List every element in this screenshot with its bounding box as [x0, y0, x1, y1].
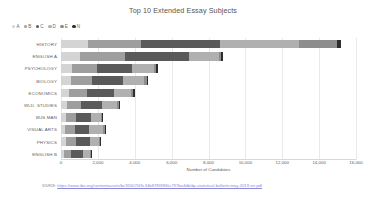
bar-segment-n[interactable]	[221, 52, 223, 61]
bar-segment-n[interactable]	[119, 101, 120, 110]
x-tick-label: 8,000	[203, 160, 214, 165]
legend-item-d[interactable]: D	[48, 24, 56, 29]
bar-segment-b[interactable]	[71, 76, 92, 85]
bar-segment-d[interactable]	[89, 125, 103, 134]
bar-segment-n[interactable]	[105, 125, 106, 134]
bar-segment-d[interactable]	[123, 76, 144, 85]
bar-segment-a[interactable]	[61, 40, 88, 49]
chart-title: Top 10 Extended Essay Subjects	[0, 6, 366, 15]
source-word: source:	[42, 183, 56, 188]
source-url[interactable]: https://www.ibo.org/contentassets/bc9200…	[57, 183, 262, 188]
bar-row[interactable]	[61, 76, 148, 85]
legend-label-n: N	[77, 24, 80, 29]
bar-segment-c[interactable]	[81, 101, 102, 110]
bar-row[interactable]	[61, 150, 92, 159]
bar-segment-b[interactable]	[69, 89, 87, 98]
legend-item-e[interactable]: E	[60, 24, 67, 29]
bar-segment-n[interactable]	[100, 137, 101, 146]
y-axis-label-english-b: ENGLISH B	[32, 152, 57, 157]
bar-segment-n[interactable]	[91, 150, 92, 159]
bar-segment-d[interactable]	[114, 89, 132, 98]
legend-label-e: E	[65, 24, 68, 29]
bar-segment-b[interactable]	[72, 64, 97, 73]
legend-swatch-n	[72, 25, 75, 28]
bar-row[interactable]	[61, 113, 103, 122]
bar-segment-b[interactable]	[65, 125, 75, 134]
bar-segment-c[interactable]	[92, 76, 123, 85]
bar-row[interactable]	[61, 40, 341, 49]
legend-item-a[interactable]: A	[12, 24, 19, 29]
gridline	[245, 38, 246, 160]
bar-segment-a[interactable]	[61, 89, 69, 98]
bar-segment-b[interactable]	[67, 101, 81, 110]
bar-segment-d[interactable]	[189, 52, 219, 61]
x-tick-label: 16,000	[349, 160, 362, 165]
bar-segment-d[interactable]	[132, 64, 153, 73]
legend-item-b[interactable]: B	[24, 24, 31, 29]
bar-row[interactable]	[61, 137, 101, 146]
y-axis-label-physics: PHYSICS	[37, 140, 57, 145]
x-tick-label: 12,000	[276, 160, 289, 165]
bar-row[interactable]	[61, 101, 120, 110]
legend-item-c[interactable]: C	[36, 24, 44, 29]
plot-area	[61, 38, 356, 160]
y-axis-label-history: HISTORY	[37, 42, 57, 47]
bar-segment-d[interactable]	[102, 101, 116, 110]
legend-swatch-b	[24, 25, 27, 28]
x-tick-label: 0	[60, 160, 62, 165]
y-axis-label-biology: BIOLOGY	[36, 79, 57, 84]
bar-segment-n[interactable]	[147, 76, 148, 85]
bar-segment-b[interactable]	[66, 137, 76, 146]
bar-segment-n[interactable]	[133, 89, 134, 98]
bar-segment-c[interactable]	[125, 52, 190, 61]
bar-segment-n[interactable]	[156, 64, 158, 73]
y-axis-label-wld-studies: WLD. STUDIES	[24, 103, 57, 108]
bar-segment-b[interactable]	[80, 52, 124, 61]
bar-segment-c[interactable]	[76, 137, 90, 146]
y-axis-label-bus-man: BUS MAN	[36, 115, 57, 120]
bar-segment-a[interactable]	[61, 76, 71, 85]
bar-segment-b[interactable]	[64, 150, 71, 159]
legend-swatch-d	[48, 25, 51, 28]
bar-segment-c[interactable]	[87, 89, 114, 98]
bar-segment-d[interactable]	[220, 40, 299, 49]
y-axis-label-english-a: ENGLISH A	[32, 54, 57, 59]
bar-segment-c[interactable]	[141, 40, 219, 49]
bar-segment-d[interactable]	[91, 113, 101, 122]
chart-legend: A B C D E N	[12, 24, 80, 29]
y-axis-labels: HISTORYENGLISH APSYCHOLOGYBIOLOGYECONOMI…	[0, 38, 57, 160]
bar-segment-a[interactable]	[61, 52, 80, 61]
bar-segment-c[interactable]	[75, 125, 89, 134]
bar-segment-b[interactable]	[66, 113, 76, 122]
y-axis-label-economics: ECONOMICS	[29, 91, 57, 96]
gridline	[319, 38, 320, 160]
bar-segment-e[interactable]	[299, 40, 337, 49]
legend-swatch-e	[60, 25, 63, 28]
x-tick-label: 6,000	[166, 160, 177, 165]
y-axis-label-visual-arts: VISUAL ARTS	[27, 127, 57, 132]
legend-label-a: A	[16, 24, 19, 29]
legend-label-c: C	[40, 24, 43, 29]
gridline	[282, 38, 283, 160]
bar-segment-c[interactable]	[71, 150, 82, 159]
legend-item-n[interactable]: N	[72, 24, 80, 29]
y-axis-label-psychology: PSYCHOLOGY	[25, 66, 57, 71]
bar-segment-d[interactable]	[83, 150, 91, 159]
bar-segment-n[interactable]	[337, 40, 341, 49]
bar-segment-c[interactable]	[97, 64, 132, 73]
legend-label-d: D	[53, 24, 56, 29]
x-tick-label: 2,000	[92, 160, 103, 165]
bar-row[interactable]	[61, 52, 223, 61]
gridline	[356, 38, 357, 160]
bar-segment-n[interactable]	[102, 113, 103, 122]
bar-row[interactable]	[61, 89, 135, 98]
source-note: source: https://www.ibo.org/contentasset…	[42, 183, 262, 188]
bar-row[interactable]	[61, 64, 158, 73]
bar-segment-a[interactable]	[61, 64, 72, 73]
bar-segment-c[interactable]	[76, 113, 91, 122]
bar-row[interactable]	[61, 125, 106, 134]
bar-segment-d[interactable]	[90, 137, 99, 146]
legend-label-b: B	[28, 24, 31, 29]
x-tick-label: 10,000	[239, 160, 252, 165]
bar-segment-b[interactable]	[88, 40, 141, 49]
